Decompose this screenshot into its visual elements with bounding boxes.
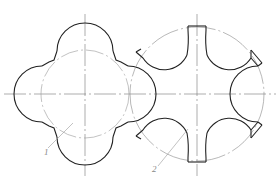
leader-part2 (158, 129, 188, 166)
part2-slot-upper-right-side2 (258, 63, 262, 66)
part1-notch-top-right (113, 51, 128, 66)
part2-arc-lower-right (207, 118, 251, 133)
part2-slot-upper-left-cap (136, 49, 141, 52)
part1-label: 1 (44, 147, 49, 157)
part2-slot-lower-left-cap (136, 136, 141, 139)
part2-slot-bottom-left-edge (187, 133, 188, 162)
part1-notch-bottom-left (42, 122, 57, 137)
mechanism-drawing (0, 0, 280, 188)
part2-slot-bottom-right-edge (206, 133, 207, 162)
part2-arc-upper-left (143, 55, 187, 70)
part2-arc-lower-left (143, 118, 187, 133)
part2-slot-lower-right-side2 (258, 122, 262, 125)
part2-slot-lower-right-wall (251, 122, 258, 130)
part1-notch-bottom-right (113, 122, 128, 137)
drawing-canvas: 1 2 (0, 0, 280, 188)
part2-arc-upper-right (207, 55, 251, 70)
part2-slot-top-right-edge (206, 26, 207, 55)
part2-slot-upper-left-end (136, 52, 143, 58)
part1-notch-top-left (42, 51, 57, 66)
part2-slot-lower-left-end (136, 130, 143, 136)
part2-slot-top-left-edge (187, 26, 188, 55)
part2-label: 2 (152, 164, 157, 174)
